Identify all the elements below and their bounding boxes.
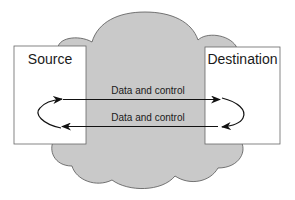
flow-label-forward: Data and control	[111, 85, 184, 96]
flow-label-return: Data and control	[111, 112, 184, 123]
source-label: Source	[28, 51, 73, 67]
destination-node: Destination	[205, 47, 280, 144]
destination-label: Destination	[207, 51, 277, 67]
diagram-canvas: Source Destination Data and control Data…	[0, 0, 295, 200]
source-node: Source	[14, 46, 86, 144]
